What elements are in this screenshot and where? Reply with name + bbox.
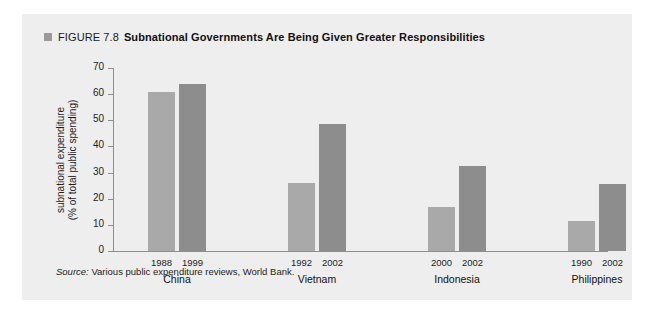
figure-title-text: Subnational Governments Are Being Given … xyxy=(124,31,485,43)
bar-philippines-2002 xyxy=(599,184,626,251)
bar-philippines-1990 xyxy=(568,221,595,251)
x-axis-country-label: Philippines xyxy=(552,273,642,285)
x-axis-year-label: 1990 xyxy=(568,257,595,268)
y-axis-tick-label: 10 xyxy=(93,218,104,229)
bar-china-1988 xyxy=(148,92,175,251)
bar-indonesia-2002 xyxy=(459,166,486,251)
y-axis-tick: 20 xyxy=(108,199,113,200)
source-label: Source: xyxy=(56,266,89,277)
y-axis-tick-label: 0 xyxy=(98,244,104,255)
x-axis-year-label: 2002 xyxy=(319,257,346,268)
y-axis-title: subnational expenditure (% of total publ… xyxy=(52,68,82,252)
bar-vietnam-1992 xyxy=(288,183,315,251)
y-axis-tick-label: 50 xyxy=(93,113,104,124)
y-axis-tick: 40 xyxy=(108,146,113,147)
x-axis-year-label: 2002 xyxy=(599,257,626,268)
x-axis-year-label: 2000 xyxy=(428,257,455,268)
x-axis-year-label: 2002 xyxy=(459,257,486,268)
y-axis-tick: 30 xyxy=(108,173,113,174)
bar-indonesia-2000 xyxy=(428,207,455,251)
plot-area: 706050403020100 19881999China19922002Vie… xyxy=(113,68,608,252)
y-axis-line xyxy=(113,68,114,252)
y-axis-tick-label: 70 xyxy=(93,61,104,72)
y-axis-tick: 10 xyxy=(108,225,113,226)
bar-china-1999 xyxy=(179,84,206,251)
y-axis-tick-label: 60 xyxy=(93,87,104,98)
y-axis-tick-label: 40 xyxy=(93,139,104,150)
y-axis-tick-label: 30 xyxy=(93,166,104,177)
y-axis-title-line-2: (% of total public spending) xyxy=(67,100,79,221)
y-axis-title-line-1: subnational expenditure xyxy=(55,100,67,221)
y-axis-tick: 0 xyxy=(108,251,113,252)
y-axis-tick: 50 xyxy=(108,120,113,121)
y-axis-title-text: subnational expenditure (% of total publ… xyxy=(55,100,79,221)
y-axis-tick: 60 xyxy=(108,94,113,95)
source-text: Various public expenditure reviews, Worl… xyxy=(89,266,295,277)
figure-panel: FIGURE 7.8 Subnational Governments Are B… xyxy=(22,14,632,300)
source-note: Source: Various public expenditure revie… xyxy=(56,266,294,277)
bar-vietnam-2002 xyxy=(319,124,346,251)
figure-title: FIGURE 7.8 Subnational Governments Are B… xyxy=(44,31,485,43)
figure-number-label: FIGURE 7.8 xyxy=(58,31,119,43)
y-axis-tick-label: 20 xyxy=(93,192,104,203)
x-axis-country-label: Indonesia xyxy=(412,273,502,285)
y-axis-tick: 70 xyxy=(108,68,113,69)
x-axis-line xyxy=(113,251,608,252)
square-bullet-icon xyxy=(44,33,52,41)
